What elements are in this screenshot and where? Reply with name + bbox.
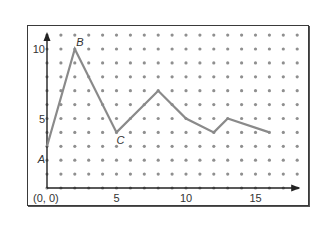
- grid-dot: [171, 159, 174, 162]
- grid-dot: [296, 173, 299, 176]
- grid-dot: [296, 34, 299, 37]
- grid-dot: [157, 173, 160, 176]
- grid-dot: [129, 34, 132, 37]
- grid-dot: [212, 47, 215, 50]
- point-label-a: A: [37, 153, 45, 165]
- grid-dot: [115, 47, 118, 50]
- grid-dot: [59, 173, 62, 176]
- grid-dot: [198, 61, 201, 64]
- grid-dot: [129, 47, 132, 50]
- grid-dot: [268, 145, 271, 148]
- tick-labels: 51015510: [33, 43, 262, 204]
- origin-label: (0, 0): [33, 192, 59, 204]
- grid-dot: [240, 89, 243, 92]
- grid-dot: [198, 47, 201, 50]
- grid-dot: [129, 75, 132, 78]
- grid-dot: [296, 47, 299, 50]
- grid-dot: [143, 61, 146, 64]
- grid-dot: [171, 145, 174, 148]
- grid-dot: [282, 103, 285, 106]
- grid-dot: [59, 159, 62, 162]
- grid-dot: [296, 61, 299, 64]
- grid-dot: [282, 117, 285, 120]
- grid-dot: [129, 89, 132, 92]
- grid-dot: [254, 34, 257, 37]
- point-label-b: B: [76, 36, 83, 48]
- grid-dot: [240, 173, 243, 176]
- grid-dot: [226, 145, 229, 148]
- grid-dot: [226, 34, 229, 37]
- grid-dot: [115, 61, 118, 64]
- grid-dot: [171, 47, 174, 50]
- grid-dot: [73, 103, 76, 106]
- grid-dot: [171, 173, 174, 176]
- grid-dot: [59, 145, 62, 148]
- grid-dot: [240, 47, 243, 50]
- y-axis-arrow-icon: [44, 32, 51, 41]
- grid-dot: [129, 145, 132, 148]
- grid-dot: [87, 47, 90, 50]
- grid-dot: [296, 131, 299, 134]
- grid-dot: [198, 117, 201, 120]
- grid-dot: [157, 34, 160, 37]
- grid-dot: [115, 75, 118, 78]
- grid-dot: [143, 145, 146, 148]
- grid-dot: [212, 117, 215, 120]
- grid-dot: [212, 103, 215, 106]
- grid-dot: [268, 34, 271, 37]
- grid-dot: [157, 117, 160, 120]
- grid-dot: [143, 131, 146, 134]
- grid-dot: [184, 61, 187, 64]
- grid-dot: [157, 47, 160, 50]
- grid-dot: [198, 131, 201, 134]
- y-tick-label: 10: [33, 43, 45, 55]
- grid-dot: [115, 117, 118, 120]
- grid-dot: [157, 75, 160, 78]
- grid-dot: [268, 89, 271, 92]
- grid-dot: [240, 61, 243, 64]
- grid-dot: [115, 159, 118, 162]
- x-tick-label: 15: [249, 192, 261, 204]
- grid-dot: [212, 159, 215, 162]
- grid-dot: [240, 117, 243, 120]
- grid-dot: [254, 103, 257, 106]
- grid-dot: [296, 117, 299, 120]
- grid-dot: [87, 173, 90, 176]
- grid-dot: [73, 131, 76, 134]
- grid-dot: [101, 131, 104, 134]
- grid-dot: [171, 89, 174, 92]
- grid-dot: [143, 34, 146, 37]
- grid-dot: [184, 173, 187, 176]
- grid-dot: [296, 159, 299, 162]
- grid-dot: [198, 34, 201, 37]
- grid-dot: [240, 131, 243, 134]
- grid-dot: [87, 34, 90, 37]
- grid-dot: [87, 89, 90, 92]
- grid-dot: [254, 145, 257, 148]
- grid-dot: [254, 75, 257, 78]
- grid-dot: [226, 75, 229, 78]
- grid-dot: [87, 103, 90, 106]
- grid-dot: [296, 75, 299, 78]
- grid-dot: [268, 75, 271, 78]
- grid-dot: [254, 47, 257, 50]
- grid-dot: [212, 89, 215, 92]
- grid-dot: [143, 89, 146, 92]
- grid-dot: [198, 145, 201, 148]
- grid-dot: [129, 61, 132, 64]
- grid-dot: [198, 89, 201, 92]
- grid-dot: [73, 159, 76, 162]
- grid-dot: [143, 75, 146, 78]
- grid-dot: [157, 131, 160, 134]
- grid-dot: [73, 89, 76, 92]
- grid-dot: [226, 89, 229, 92]
- grid-dot: [59, 117, 62, 120]
- grid-dot: [157, 145, 160, 148]
- grid-dot: [171, 131, 174, 134]
- grid-dot: [212, 75, 215, 78]
- grid-dot: [143, 173, 146, 176]
- grid-dot: [143, 117, 146, 120]
- grid-dot: [87, 145, 90, 148]
- grid-dot: [268, 117, 271, 120]
- grid-dot: [115, 173, 118, 176]
